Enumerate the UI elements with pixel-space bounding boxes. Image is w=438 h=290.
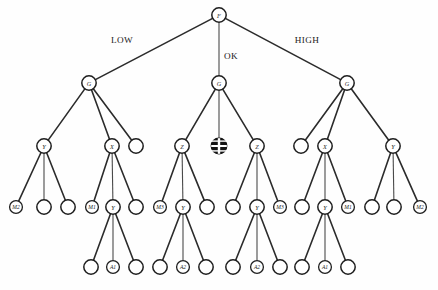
tree-node-label: M2 (415, 204, 424, 210)
tree-node-a2[interactable]: A2 (177, 261, 190, 274)
tree-node-empty[interactable] (295, 200, 309, 214)
tree-node-label: A1 (109, 264, 116, 270)
tree-edge (116, 214, 134, 261)
tree-node-y[interactable]: Y (106, 200, 120, 214)
tree-node-label: M2 (11, 204, 20, 210)
tree-node-empty[interactable] (61, 200, 75, 214)
tree-node-empty[interactable] (387, 200, 401, 214)
tree-node-a1[interactable]: A1 (107, 261, 120, 274)
tree-diagram: FGGGYXZZXYM2M1YM3YYM3YM1M2A1A2A2A1 LOWOK… (0, 0, 438, 290)
tree-edge (305, 153, 323, 201)
tree-node-m2[interactable]: M2 (10, 201, 23, 214)
tree-edge (393, 153, 394, 200)
tree-node-y[interactable]: Y (250, 200, 264, 214)
tree-node-label: Y (391, 143, 395, 150)
tree-node-empty[interactable] (341, 260, 355, 274)
edge-label-ok: OK (224, 51, 238, 61)
tree-edge (305, 214, 323, 261)
tree-node-y[interactable]: Y (386, 139, 400, 153)
tree-edge (95, 18, 212, 79)
tree-node-label: X (322, 143, 327, 150)
tree-edge (112, 153, 113, 200)
tree-node-label: A2 (253, 264, 260, 270)
tree-node-m3[interactable]: M3 (274, 201, 287, 214)
tree-node-g[interactable]: G (340, 76, 354, 90)
tree-node-empty[interactable] (294, 139, 308, 153)
tree-node-a1[interactable]: A1 (319, 261, 332, 274)
tree-node-blocked[interactable] (211, 138, 227, 154)
tree-node-empty[interactable] (84, 260, 98, 274)
tree-edge (93, 89, 131, 140)
tree-node-label: A2 (179, 264, 186, 270)
tree-node-empty[interactable] (129, 260, 143, 274)
tree-node-empty[interactable] (295, 260, 309, 274)
tree-edge (236, 214, 255, 261)
tree-node-label: M1 (87, 204, 96, 210)
edge-labels-layer: LOWOKHIGH (111, 35, 319, 61)
tree-edge (163, 214, 181, 261)
diagram-canvas: FGGGYXZZXYM2M1YM3YYM3YM1M2A1A2A2A1 LOWOK… (0, 0, 438, 290)
tree-node-label: A1 (321, 264, 328, 270)
edge-label-high: HIGH (295, 35, 320, 45)
tree-edge (115, 153, 134, 201)
tree-node-empty[interactable] (199, 260, 213, 274)
tree-edge (186, 214, 204, 261)
tree-node-a2[interactable]: A2 (251, 261, 264, 274)
tree-node-label: M3 (155, 204, 164, 210)
tree-node-m1[interactable]: M1 (86, 201, 99, 214)
tree-node-empty[interactable] (365, 200, 379, 214)
tree-node-label: Y (255, 204, 259, 211)
tree-edge (93, 214, 110, 260)
tree-node-g[interactable]: G (82, 76, 96, 90)
tree-node-label: M3 (275, 204, 284, 210)
tree-edge (223, 89, 254, 140)
tree-edge (236, 153, 255, 201)
tree-node-label: Z (255, 143, 259, 150)
tree-node-label: X (109, 143, 114, 150)
tree-node-empty[interactable] (129, 139, 143, 153)
tree-node-empty[interactable] (226, 260, 240, 274)
tree-node-y[interactable]: Y (176, 200, 190, 214)
tree-node-g[interactable]: G (212, 76, 226, 90)
tree-node-label: Y (181, 204, 185, 211)
tree-node-empty[interactable] (153, 260, 167, 274)
tree-node-m3[interactable]: M3 (154, 201, 167, 214)
tree-edge (162, 153, 179, 201)
tree-node-empty[interactable] (273, 260, 287, 274)
tree-node-label: G (87, 80, 92, 87)
tree-node-y[interactable]: Y (318, 200, 332, 214)
tree-node-m2[interactable]: M2 (414, 201, 427, 214)
tree-node-z[interactable]: Z (250, 139, 264, 153)
tree-node-label: Y (42, 143, 46, 150)
tree-edge (185, 153, 205, 201)
tree-node-empty[interactable] (129, 200, 143, 214)
tree-edge (396, 153, 418, 202)
tree-node-x[interactable]: X (105, 139, 119, 153)
tree-edge (48, 89, 85, 140)
tree-node-label: M1 (343, 204, 352, 210)
tree-node-empty[interactable] (37, 200, 51, 214)
tree-node-z[interactable]: Z (175, 139, 189, 153)
tree-edge (186, 89, 216, 140)
tree-node-f[interactable]: F (212, 8, 226, 22)
edge-label-low: LOW (111, 35, 133, 45)
tree-node-y[interactable]: Y (37, 139, 51, 153)
tree-edge (260, 214, 278, 261)
tree-edge (260, 153, 278, 201)
tree-node-x[interactable]: X (318, 139, 332, 153)
tree-node-label: Y (323, 204, 327, 211)
tree-edge (225, 18, 340, 79)
tree-node-label: Y (111, 204, 115, 211)
tree-edge (351, 89, 389, 140)
tree-node-label: Z (180, 143, 184, 150)
tree-node-empty[interactable] (200, 200, 214, 214)
tree-edge (374, 153, 390, 200)
tree-node-label: G (217, 80, 222, 87)
tree-edge (182, 153, 183, 200)
nodes-layer: FGGGYXZZXYM2M1YM3YYM3YM1M2A1A2A2A1 (10, 8, 427, 274)
tree-node-label: G (345, 80, 350, 87)
tree-node-m1[interactable]: M1 (342, 201, 355, 214)
tree-edge (19, 153, 41, 202)
tree-node-empty[interactable] (226, 200, 240, 214)
tree-edge (305, 89, 343, 140)
